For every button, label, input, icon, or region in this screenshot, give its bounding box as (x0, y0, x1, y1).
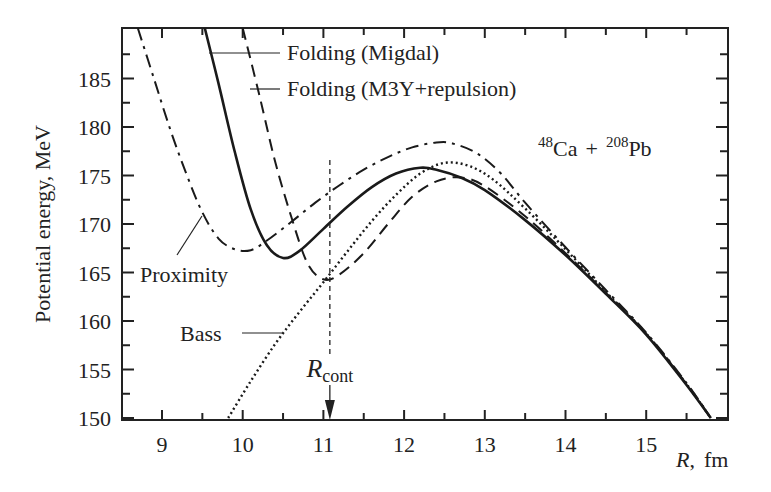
legend-leader-proximity (177, 216, 202, 255)
potential-energy-chart: 9101112131415150155160165170175180185 Rc… (0, 0, 771, 492)
y-tick-label: 155 (78, 358, 111, 383)
y-axis-label: Potential energy, MeV (30, 125, 55, 323)
legend-label-m3y: Folding (M3Y+repulsion) (287, 76, 516, 101)
x-tick-label: 13 (474, 432, 496, 457)
y-tick-label: 150 (78, 406, 111, 431)
y-tick-label: 170 (78, 212, 111, 237)
reaction-annotation: 48Ca+208Pb (538, 134, 652, 161)
x-tick-label: 14 (555, 432, 577, 457)
legend-label-migdal: Folding (Migdal) (287, 40, 439, 65)
r-cont-arrow-icon (325, 400, 335, 420)
y-tick-label: 175 (78, 164, 111, 189)
y-tick-label: 160 (78, 309, 111, 334)
x-axis-label: R,fm (675, 447, 728, 472)
x-tick-label: 9 (157, 432, 168, 457)
curve-bass (228, 162, 711, 418)
legend-label-proximity: Proximity (140, 262, 228, 287)
x-tick-label: 12 (393, 432, 415, 457)
y-tick-label: 180 (78, 115, 111, 140)
r-cont-label: Rcont (305, 354, 353, 386)
x-tick-label: 11 (313, 432, 334, 457)
y-tick-label: 165 (78, 261, 111, 286)
x-tick-label: 15 (635, 432, 657, 457)
y-tick-label: 185 (78, 67, 111, 92)
legend-label-bass: Bass (180, 321, 222, 346)
x-tick-label: 10 (232, 432, 254, 457)
